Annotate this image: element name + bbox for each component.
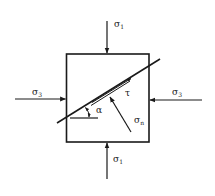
angle-alpha-label: α	[96, 105, 102, 115]
failure-plane-line	[57, 59, 160, 123]
element-box	[67, 54, 150, 142]
left-sigma3-label: σ3	[32, 87, 42, 98]
top-sigma1-label: σ1	[114, 19, 124, 30]
shear-stress-label: τ	[125, 88, 130, 98]
stress-element-diagram: σ1 σ1 σ3 σ3 τ σn α	[0, 0, 215, 196]
normal-stress-label: σn	[134, 115, 144, 126]
angle-arc	[86, 108, 90, 118]
right-sigma3-label: σ3	[172, 87, 182, 98]
normal-stress-arrow	[110, 97, 131, 132]
bottom-sigma1-label: σ1	[113, 154, 123, 165]
